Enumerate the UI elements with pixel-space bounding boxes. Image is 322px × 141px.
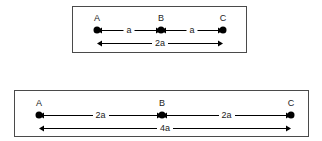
arrowhead-left-icon [161,27,166,33]
dimension-b-c: a [161,25,223,36]
dimension-label: a [186,26,197,35]
dimension-label: 2a [152,39,168,48]
arrowhead-left-icon [97,27,102,33]
arrowhead-right-icon [218,27,223,33]
arrowhead-left-icon [39,125,44,131]
point-label-c: C [220,14,227,23]
point-label-a: A [94,14,100,23]
point-label-c: C [288,99,295,108]
arrowhead-right-icon [286,112,291,118]
arrowhead-left-icon [39,112,44,118]
figure-canvas: A B C a a 2a A B [0,0,322,141]
dimension-a-b: 2a [39,110,162,121]
point-label-b: B [158,14,164,23]
dimension-b-c: 2a [162,110,291,121]
arrowhead-left-icon [162,112,167,118]
dimension-a-b: a [97,25,161,36]
dimension-label: 4a [157,124,173,133]
point-label-a: A [36,99,42,108]
arrowhead-right-icon [218,40,223,46]
dimension-label: 2a [218,111,234,120]
dimension-label: a [123,26,134,35]
dimension-total: 4a [39,123,291,134]
diagram-panel-bottom: A B C 2a 2a 4a [14,90,309,137]
diagram-panel-top: A B C a a 2a [72,6,247,53]
arrowhead-right-icon [286,125,291,131]
dimension-label: 2a [92,111,108,120]
dimension-total: 2a [97,38,223,49]
point-label-b: B [159,99,165,108]
arrowhead-left-icon [97,40,102,46]
